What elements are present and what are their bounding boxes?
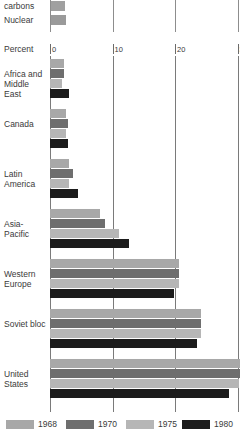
bar	[50, 139, 68, 148]
bar	[50, 59, 64, 68]
category-label: Soviet bloc	[4, 319, 48, 329]
bar-group: Western Europe	[0, 256, 240, 306]
bar	[50, 289, 174, 298]
fragment-gridline	[238, 0, 239, 32]
bar	[50, 369, 240, 378]
bar	[50, 179, 69, 188]
fragment-row-label: carbons	[4, 0, 48, 12]
fragment-gridline	[50, 0, 51, 32]
category-label: Africa and Middle East	[4, 69, 48, 99]
category-label: Western Europe	[4, 269, 48, 289]
fragment-gridline	[113, 0, 114, 32]
bar	[50, 379, 239, 388]
x-axis-label: Percent	[4, 44, 33, 55]
fragment-gridline	[175, 0, 176, 32]
bar-group: United States	[0, 356, 240, 406]
bar	[50, 239, 129, 248]
x-tick-mark	[238, 44, 239, 54]
bar	[50, 209, 100, 218]
fragment-row: Nuclear	[0, 14, 240, 27]
legend-swatch	[182, 420, 210, 429]
bar	[50, 109, 66, 118]
x-tick-mark	[175, 44, 176, 54]
x-tick-label: 10	[115, 44, 123, 55]
bar	[50, 229, 119, 238]
plot-area: Africa and Middle EastCanadaLatin Americ…	[0, 56, 240, 412]
bar	[50, 329, 201, 338]
fragment-bar	[50, 15, 66, 25]
x-tick-mark	[113, 44, 114, 54]
x-tick-label: 0	[52, 44, 56, 55]
bar	[50, 79, 62, 88]
bar	[50, 269, 179, 278]
legend-swatch	[126, 420, 154, 429]
bar-group: Canada	[0, 106, 240, 156]
bar	[50, 279, 179, 288]
category-label: Latin America	[4, 169, 48, 189]
bar	[50, 219, 105, 228]
x-tick-label: 30	[240, 44, 241, 55]
chart-legend: 1968 1970 1975 1980	[0, 419, 240, 441]
bar	[50, 129, 66, 138]
bar	[50, 69, 64, 78]
bar	[50, 319, 201, 328]
bar-chart: carbons Nuclear Percent 0102030 Africa a…	[0, 0, 240, 442]
bar	[50, 169, 73, 178]
legend-label: 1968	[38, 419, 57, 430]
legend-label: 1970	[98, 419, 117, 430]
category-label: United States	[4, 369, 48, 389]
bar	[50, 339, 197, 348]
fragment-row: carbons	[0, 0, 240, 13]
bar-group: Africa and Middle East	[0, 56, 240, 106]
legend-swatch	[66, 420, 94, 429]
bar-group: Soviet bloc	[0, 306, 240, 356]
bar-group: Asia-Pacific	[0, 206, 240, 256]
bar	[50, 159, 69, 168]
bar	[50, 389, 229, 398]
x-tick-mark	[50, 44, 51, 54]
truncated-chart-fragment: carbons Nuclear	[0, 0, 240, 38]
legend-label: 1975	[158, 419, 177, 430]
bar	[50, 119, 68, 128]
x-tick-label: 20	[177, 44, 185, 55]
bar	[50, 309, 201, 318]
category-label: Canada	[4, 119, 48, 129]
bar	[50, 189, 78, 198]
category-label: Asia-Pacific	[4, 219, 48, 239]
bar	[50, 259, 179, 268]
fragment-bar	[50, 1, 65, 11]
legend-label: 1980	[214, 419, 233, 430]
bar	[50, 89, 69, 98]
bar-group: Latin America	[0, 156, 240, 206]
bar	[50, 359, 240, 368]
fragment-row-label: Nuclear	[4, 14, 48, 26]
legend-swatch	[6, 420, 34, 429]
